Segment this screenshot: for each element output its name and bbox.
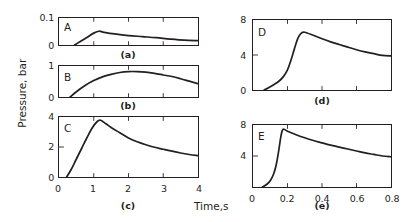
curve-e [253, 125, 391, 187]
y-tick-d-0: 8 [212, 15, 246, 25]
caption-d: (d) [292, 96, 352, 106]
y-tick-e-0: 8 [212, 120, 246, 130]
series-label-b: B [64, 72, 71, 83]
x-tick-c-3: 3 [150, 184, 178, 194]
y-tick-d-1: 4 [212, 51, 246, 61]
caption-c: (c) [98, 201, 158, 211]
y-tick-b-1: 0 [18, 93, 54, 103]
curve-d [253, 20, 391, 90]
y-tick-d-2: 0 [212, 86, 246, 96]
y-tick-c-1: 2 [18, 142, 54, 152]
plot-area-e [252, 124, 392, 188]
plot-area-b [58, 65, 199, 98]
caption-a: (a) [98, 50, 158, 60]
x-tick-c-2: 2 [114, 184, 142, 194]
curve-a [59, 18, 198, 45]
y-tick-e-1: 4 [212, 151, 246, 161]
x-tick-e-4: 0.8 [378, 194, 406, 204]
x-tick-e-0: 0 [238, 194, 266, 204]
y-tick-a-0: 0.1 [18, 13, 54, 23]
pressure-time-figure: Pressure, bar 0.1 0 A (a) 1 0 B (b) 4 2 … [0, 0, 416, 222]
series-label-a: A [64, 22, 71, 33]
caption-b: (b) [98, 101, 158, 111]
y-tick-c-2: 0 [18, 173, 54, 183]
series-label-d: D [258, 27, 266, 38]
plot-area-c [58, 116, 199, 178]
caption-e: (e) [292, 201, 352, 211]
series-label-c: C [64, 123, 71, 134]
series-label-e: E [258, 131, 265, 142]
y-tick-c-0: 4 [18, 112, 54, 122]
curve-b [59, 66, 198, 97]
x-tick-c-1: 1 [79, 184, 107, 194]
x-axis-label: Time,s [194, 201, 229, 212]
x-tick-c-4: 4 [185, 184, 213, 194]
y-tick-a-1: 0 [18, 41, 54, 51]
plot-area-a [58, 17, 199, 46]
curve-c [59, 117, 198, 177]
plot-area-d [252, 19, 392, 91]
x-tick-c-0: 0 [44, 184, 72, 194]
y-tick-b-0: 1 [18, 61, 54, 71]
